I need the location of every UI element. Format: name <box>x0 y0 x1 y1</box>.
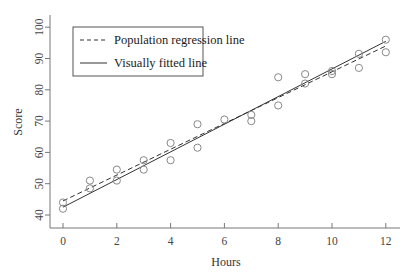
scatter-chart: 405060708090100024681012HoursScore Popul… <box>0 0 417 280</box>
x-tick-label: 12 <box>380 235 392 247</box>
y-tick-label: 90 <box>33 53 45 65</box>
x-tick-label: 10 <box>326 235 338 247</box>
legend-label-population: Population regression line <box>114 33 245 47</box>
data-point <box>355 64 362 71</box>
data-point <box>140 157 147 164</box>
data-point <box>167 157 174 164</box>
data-point <box>382 36 389 43</box>
x-tick-label: 4 <box>168 235 174 247</box>
data-point <box>275 102 282 109</box>
x-tick-label: 8 <box>275 235 281 247</box>
y-tick-label: 100 <box>33 18 45 36</box>
data-point <box>194 144 201 151</box>
data-point <box>140 166 147 173</box>
y-tick-label: 50 <box>33 178 45 190</box>
y-tick-label: 60 <box>33 146 45 158</box>
legend: Population regression line Visually fitt… <box>73 27 245 76</box>
data-point <box>86 185 93 192</box>
data-point <box>113 166 120 173</box>
y-tick-label: 70 <box>33 115 45 127</box>
x-axis-title: Hours <box>211 255 241 269</box>
data-point <box>221 116 228 123</box>
y-axis-title: Score <box>11 108 25 135</box>
data-point <box>382 49 389 56</box>
x-tick-label: 0 <box>60 235 66 247</box>
x-tick-label: 2 <box>114 235 120 247</box>
x-tick-label: 6 <box>222 235 228 247</box>
data-point <box>194 121 201 128</box>
data-point <box>275 74 282 81</box>
axes: 405060708090100024681012HoursScore <box>11 15 400 269</box>
y-tick-label: 80 <box>33 84 45 96</box>
data-point <box>302 71 309 78</box>
y-tick-label: 40 <box>33 209 45 221</box>
data-point <box>86 177 93 184</box>
data-point <box>167 139 174 146</box>
legend-label-visual: Visually fitted line <box>114 56 207 70</box>
